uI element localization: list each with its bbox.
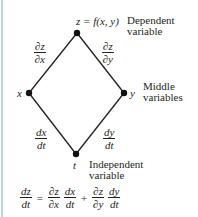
edge-label-dy-dt: dy dt	[103, 127, 115, 150]
node-z	[74, 30, 80, 36]
t-node-label: t	[73, 160, 76, 171]
edge-y-t	[76, 93, 124, 154]
x-node-label: x	[17, 88, 22, 99]
formula-term2-partial: ∂z ∂y	[92, 186, 104, 209]
middle-variables-caption: Middle variables	[143, 81, 183, 103]
y-node-label: y	[130, 88, 135, 99]
node-t	[73, 151, 79, 157]
formula-term1-derivative: dx dt	[64, 186, 76, 209]
node-y	[121, 90, 127, 96]
edge-label-dz-dx: ∂z ∂x	[34, 41, 46, 64]
formula-term1-partial: ∂z ∂x	[48, 186, 60, 209]
node-x	[26, 90, 32, 96]
edge-label-dz-dy: ∂z ∂y	[102, 41, 114, 64]
edge-label-dx-dt: dx dt	[35, 127, 47, 150]
independent-line2: variable	[89, 170, 143, 181]
independent-variable-caption: Independent variable	[89, 159, 143, 181]
chain-rule-formula: dz dt = ∂z ∂x dx dt + ∂z ∂y dy dt	[18, 186, 122, 209]
plus-sign: +	[81, 192, 87, 204]
formula-term2-derivative: dy dt	[108, 186, 120, 209]
dependent-variable-caption: Dependent variable	[127, 15, 175, 37]
formula-lhs: dz dt	[20, 186, 32, 209]
dependent-line2: variable	[127, 26, 175, 37]
top-node-label: z = f(x, y)	[76, 16, 119, 27]
equals-sign: =	[37, 192, 43, 204]
edge-z-y	[77, 33, 124, 93]
middle-line2: variables	[143, 92, 183, 103]
